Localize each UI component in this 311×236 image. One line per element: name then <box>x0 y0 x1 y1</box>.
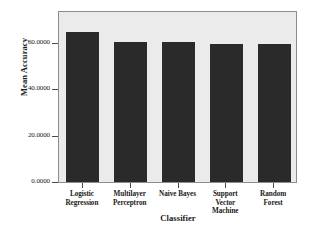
x-axis-tick-mark <box>82 183 83 188</box>
bar <box>210 44 243 182</box>
x-axis-category-label: RandomForest <box>243 190 303 207</box>
x-axis-tick-mark <box>178 183 179 188</box>
y-axis-tick-label: 40.0000 <box>0 84 50 92</box>
bar <box>162 42 195 182</box>
x-axis-title: Classifier <box>58 213 298 223</box>
x-axis-category-label-line: Random <box>243 190 303 199</box>
bar <box>66 32 99 182</box>
y-axis-title: Mean Accuracy <box>17 7 31 127</box>
bar-chart: Mean Accuracy 0.000020.000040.000060.000… <box>0 0 311 236</box>
x-axis-category-label-line: Forest <box>243 199 303 208</box>
y-axis-tick-label: 60.0000 <box>0 38 50 46</box>
y-axis-tick-label: 0.0000 <box>0 177 50 185</box>
x-axis-category-label-line: Perceptron <box>100 199 160 208</box>
bars-layer <box>59 12 296 182</box>
x-axis-tick-mark <box>225 183 226 188</box>
bar <box>258 44 291 182</box>
plot-area <box>58 11 297 183</box>
bar <box>114 42 147 182</box>
x-axis-tick-mark <box>130 183 131 188</box>
y-axis-tick-label: 20.0000 <box>0 131 50 139</box>
x-axis-tick-mark <box>273 183 274 188</box>
